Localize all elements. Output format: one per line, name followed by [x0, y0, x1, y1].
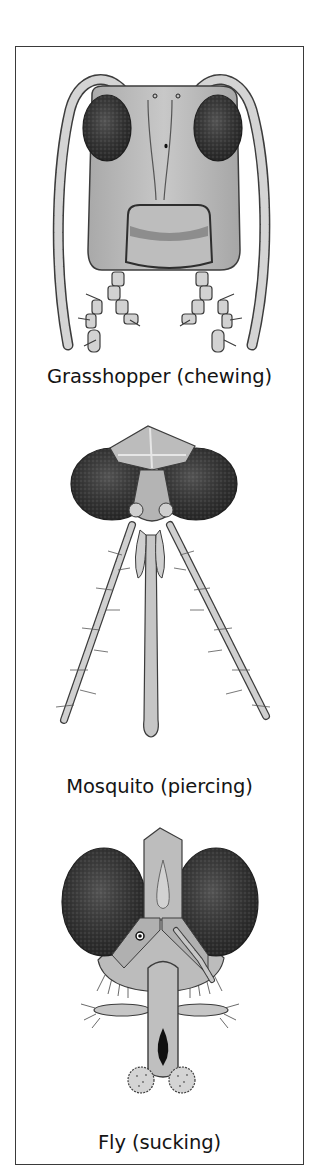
caption-mosquito: Mosquito (piercing) — [15, 775, 304, 798]
grasshopper-right-palps — [180, 272, 242, 352]
fly-left-palp — [94, 1004, 150, 1016]
grasshopper-left-palps — [78, 272, 140, 352]
fly-head — [62, 828, 258, 1093]
caption-grasshopper: Grasshopper (chewing) — [15, 365, 304, 388]
fly-left-labellum — [128, 1067, 154, 1093]
insect-mouthparts-illustration — [0, 0, 310, 1174]
grasshopper-head — [58, 80, 265, 353]
fly-right-labellum — [169, 1067, 195, 1093]
mosquito-head — [56, 426, 270, 737]
caption-fly: Fly (sucking) — [15, 1131, 304, 1154]
fly-right-palp — [172, 1004, 228, 1016]
